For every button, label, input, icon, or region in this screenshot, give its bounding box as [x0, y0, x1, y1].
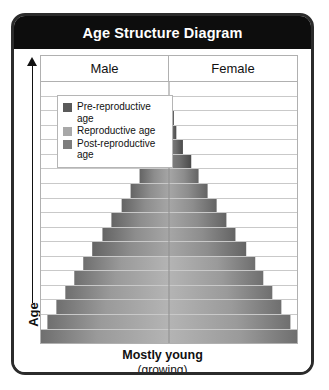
pre-reproductive-swatch: [63, 103, 72, 112]
legend-label-reproductive: Reproductive age: [77, 125, 155, 137]
title-bar: Age Structure Diagram: [14, 16, 311, 49]
legend-label-post-reproductive: Post-reproductive age: [77, 138, 167, 161]
legend-box: Pre-reproductive age Reproductive age Po…: [57, 95, 173, 168]
post-reproductive-swatch: [63, 140, 72, 149]
reproductive-swatch: [63, 127, 72, 136]
legend-label-pre-reproductive: Pre-reproductive age: [77, 101, 167, 124]
column-header-row: Male Female: [40, 55, 298, 82]
legend-item-reproductive: Reproductive age: [63, 125, 167, 137]
card-body: Age Male Female Pre-reproductive age: [14, 49, 311, 375]
page-title: Age Structure Diagram: [82, 25, 242, 41]
caption-sub: (growing): [14, 363, 311, 375]
pyramid-plot-area: Pre-reproductive age Reproductive age Po…: [40, 82, 298, 344]
y-axis-label: Age: [26, 292, 41, 338]
column-header-male: Male: [41, 56, 169, 81]
caption-main: Mostly young: [14, 348, 311, 363]
legend-item-post-reproductive: Post-reproductive age: [63, 138, 167, 161]
legend-item-pre-reproductive: Pre-reproductive age: [63, 101, 167, 124]
axis-line: [32, 63, 33, 303]
caption-block: Mostly young (growing): [14, 348, 311, 375]
diagram-card: Age Structure Diagram Age Male Female: [11, 13, 314, 375]
age-structure-diagram-figure: Age Structure Diagram Age Male Female: [0, 0, 329, 390]
column-header-female: Female: [169, 56, 297, 81]
